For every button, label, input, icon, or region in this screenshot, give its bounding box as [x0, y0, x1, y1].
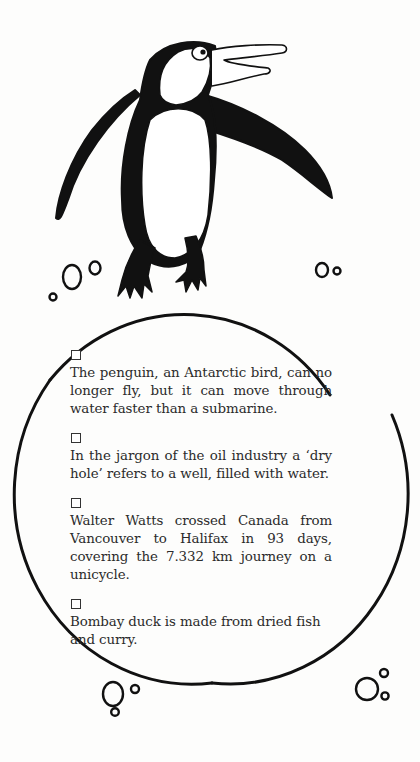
- facts-list: The penguin, an Antarctic bird, can no l…: [70, 350, 332, 664]
- fact-item: In the jargon of the oil industry a ‘dry…: [70, 433, 332, 483]
- checkbox-icon[interactable]: [71, 599, 81, 609]
- fact-text: In the jargon of the oil industry a ‘dry…: [70, 447, 332, 483]
- eye-icon: [192, 46, 208, 60]
- checkbox-icon[interactable]: [71, 498, 81, 508]
- penguin: [56, 42, 332, 298]
- fact-item: Walter Watts crossed Canada from Vancouv…: [70, 498, 332, 584]
- fact-text: Bombay duck is made from dried fish and …: [70, 613, 332, 649]
- fact-item: The penguin, an Antarctic bird, can no l…: [70, 350, 332, 418]
- checkbox-icon[interactable]: [71, 350, 81, 360]
- fact-item: Bombay duck is made from dried fish and …: [70, 599, 332, 649]
- fact-text: The penguin, an Antarctic bird, can no l…: [70, 364, 332, 418]
- fact-text: Walter Watts crossed Canada from Vancouv…: [70, 512, 332, 584]
- checkbox-icon[interactable]: [71, 433, 81, 443]
